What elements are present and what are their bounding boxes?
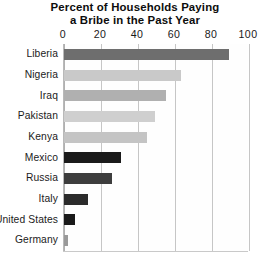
bar-germany [64,235,68,246]
bar-row [64,152,248,163]
bar-liberia [64,49,229,60]
x-tick-label-20: 20 [94,28,107,40]
x-tick-label-40: 40 [131,28,144,40]
bar-pakistan [64,111,155,122]
bar-italy [64,194,88,205]
bar-row [64,194,248,205]
bar-row [64,70,248,81]
bar-series [64,44,248,251]
bar-kenya [64,132,147,143]
bar-row [64,49,248,60]
bar-row [64,132,248,143]
chart-title: Percent of Households Paying a Bribe in … [0,1,270,28]
bar-nigeria [64,70,181,81]
bar-row [64,214,248,225]
x-tick-label-0: 0 [60,28,66,40]
bar-russia [64,173,112,184]
bar-row [64,173,248,184]
chart-title-line-1: Percent of Households Paying [0,1,270,14]
chart-caption [20,258,250,267]
bar-row [64,111,248,122]
bar-mexico [64,152,121,163]
category-label-kenya: Kenya [28,131,58,142]
plot-baseline [63,251,248,252]
bar-iraq [64,90,166,101]
category-label-united-states: United States [0,214,58,225]
x-axis-tick-labels: 020406080100 [0,28,270,41]
bar-united-states [64,214,75,225]
bar-chart: Percent of Households Paying a Bribe in … [0,0,270,267]
category-label-russia: Russia [26,172,58,183]
category-label-liberia: Liberia [26,48,58,59]
chart-title-line-2: a Bribe in the Past Year [0,14,270,27]
x-tick-label-80: 80 [205,28,218,40]
category-label-italy: Italy [39,193,58,204]
category-label-mexico: Mexico [25,152,58,163]
category-label-pakistan: Pakistan [18,110,58,121]
bar-row [64,90,248,101]
x-tick-label-60: 60 [168,28,181,40]
gridline-100 [249,44,250,251]
category-label-nigeria: Nigeria [25,69,58,80]
x-tick-label-100: 100 [239,28,258,40]
category-label-germany: Germany [15,234,58,245]
bar-row [64,235,248,246]
category-labels: LiberiaNigeriaIraqPakistanKenyaMexicoRus… [0,44,61,251]
category-label-iraq: Iraq [40,90,58,101]
plot-area [63,44,248,251]
